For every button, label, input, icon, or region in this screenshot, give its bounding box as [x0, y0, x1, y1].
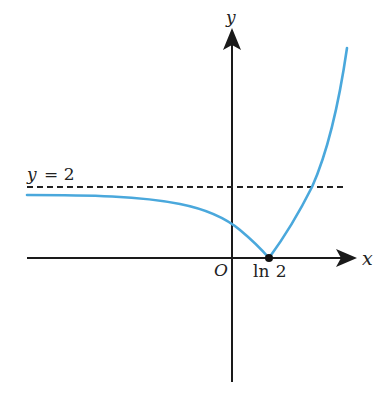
- x-axis-label: x: [362, 247, 373, 269]
- origin-label: O: [214, 260, 228, 280]
- minimum-point-label: ln 2: [253, 261, 287, 281]
- y-axis-label: y: [225, 7, 236, 27]
- asymptote-label: y = 2: [26, 164, 74, 184]
- function-curve: [27, 48, 347, 258]
- function-graph: y x O y = 2 ln 2: [0, 0, 385, 401]
